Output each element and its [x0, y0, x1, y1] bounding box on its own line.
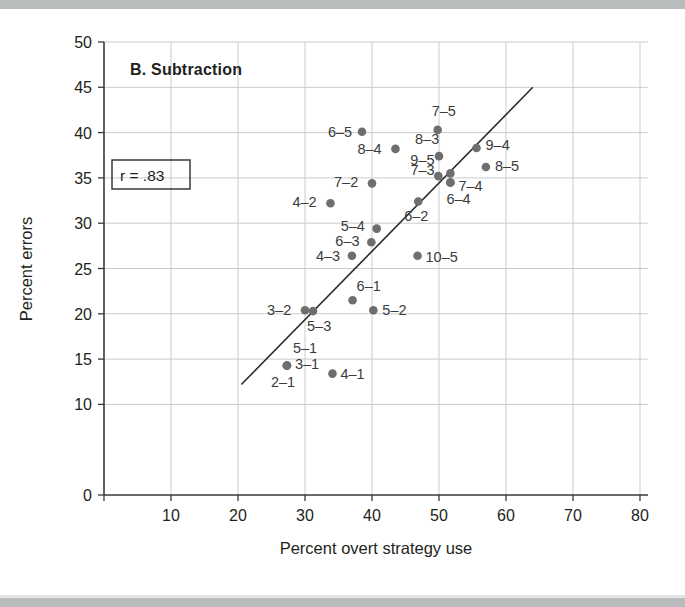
data-point-label: 6–1 [357, 278, 381, 294]
x-tick-label: 10 [162, 507, 180, 524]
data-point [309, 307, 318, 316]
data-point-label: 5–1 [293, 340, 317, 356]
data-point-label: 7–5 [432, 103, 456, 119]
x-axis-title: Percent overt strategy use [280, 539, 473, 557]
x-tick-label: 80 [631, 507, 649, 524]
x-tick-label: 60 [497, 507, 515, 524]
data-point [446, 169, 455, 178]
data-point-label: 8–3 [415, 131, 439, 147]
x-tick-label: 20 [229, 507, 247, 524]
x-tick-label: 40 [363, 507, 381, 524]
data-point-label: 10–5 [426, 249, 458, 265]
data-point [369, 306, 378, 315]
grid-lines [104, 42, 648, 495]
regression-line [241, 87, 532, 384]
data-point [372, 224, 381, 233]
data-point [328, 369, 337, 378]
data-point-label: 3–1 [295, 356, 319, 372]
y-tick-label: 25 [74, 261, 92, 278]
data-point-label: 6–5 [328, 124, 352, 140]
x-tick-label: 50 [430, 507, 448, 524]
y-tick-label: 0 [83, 487, 92, 504]
y-tick-label: 45 [74, 79, 92, 96]
data-point [326, 199, 335, 208]
data-point [434, 172, 443, 181]
data-point-label: 6–3 [335, 233, 359, 249]
data-point [472, 144, 481, 153]
figure-page: 0101520253035404550 1020304050607080 6–5… [0, 0, 685, 607]
data-point [358, 127, 367, 136]
y-tick-marks [98, 42, 104, 495]
x-tick-label: 30 [296, 507, 314, 524]
y-tick-label: 35 [74, 170, 92, 187]
data-point-label: 6–4 [446, 191, 470, 207]
data-point-label: 4–2 [292, 194, 316, 210]
data-point [391, 145, 400, 154]
data-point-label: 4–3 [316, 248, 340, 264]
data-point-label: 2–1 [271, 374, 295, 390]
correlation-annotation: r = .83 [112, 160, 190, 189]
top-decorative-band [0, 0, 685, 9]
y-tick-label: 15 [74, 351, 92, 368]
data-point-label: 7–2 [334, 174, 358, 190]
data-point [348, 252, 357, 261]
scatter-figure: 0101520253035404550 1020304050607080 6–5… [0, 9, 685, 594]
data-point [414, 197, 423, 206]
y-tick-label: 20 [74, 306, 92, 323]
correlation-value: r = .83 [120, 167, 164, 184]
data-point [301, 306, 310, 315]
bottom-decorative-band [0, 598, 685, 607]
data-point [283, 361, 292, 370]
data-point [446, 178, 455, 187]
x-tick-labels: 1020304050607080 [162, 507, 649, 524]
data-point-label: 7–3 [410, 162, 434, 178]
y-tick-labels: 0101520253035404550 [74, 34, 92, 504]
data-point-label: 8–5 [495, 158, 519, 174]
data-point-label: 5–3 [307, 318, 331, 334]
data-point-label: 3–2 [267, 302, 291, 318]
panel-title: B. Subtraction [130, 61, 242, 78]
data-point-label: 8–4 [357, 141, 381, 157]
x-tick-label: 70 [564, 507, 582, 524]
data-point [368, 179, 377, 188]
y-tick-label: 40 [74, 125, 92, 142]
data-point-label: 5–4 [341, 218, 365, 234]
y-tick-label: 10 [74, 396, 92, 413]
data-point [435, 152, 444, 161]
data-point [413, 252, 422, 261]
data-point-label: 4–1 [340, 366, 364, 382]
y-axis-title: Percent errors [17, 217, 35, 322]
x-tick-marks [104, 495, 640, 501]
y-tick-label: 30 [74, 215, 92, 232]
y-tick-label: 50 [74, 34, 92, 51]
data-point [348, 296, 357, 305]
data-point-label: 5–2 [382, 302, 406, 318]
data-point [367, 238, 376, 247]
data-point-label: 9–4 [486, 137, 510, 153]
data-point [482, 163, 491, 172]
scatter-plot-svg: 0101520253035404550 1020304050607080 6–5… [0, 9, 685, 594]
data-point-label: 6–2 [404, 208, 428, 224]
